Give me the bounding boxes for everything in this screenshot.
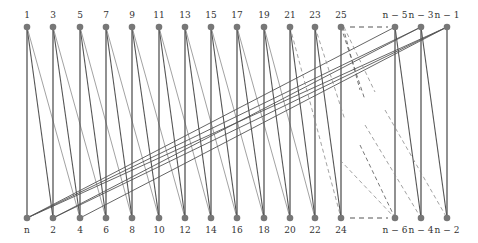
bottom-node [24, 215, 31, 222]
edge [132, 27, 159, 218]
bottom-node [312, 215, 319, 222]
top-node [129, 24, 136, 31]
bottom-node-label: n − 2 [435, 225, 460, 235]
top-node-label: 21 [284, 10, 295, 20]
edge [106, 27, 132, 218]
bottom-node [129, 215, 136, 222]
top-node [418, 24, 425, 31]
bottom-node [77, 215, 84, 222]
bottom-node [287, 215, 294, 222]
top-node [103, 24, 110, 31]
top-node [77, 24, 84, 31]
bottom-node-label: n − 4 [409, 225, 434, 235]
top-node [50, 24, 57, 31]
top-node [24, 24, 31, 31]
bottom-node-label: 6 [103, 225, 109, 235]
top-node [234, 24, 241, 31]
bottom-node [208, 215, 215, 222]
dashed-edge [365, 125, 421, 218]
edge [395, 27, 421, 218]
bottom-node [50, 215, 57, 222]
top-node [392, 24, 399, 31]
bottom-node [444, 215, 451, 222]
top-node-label: 13 [179, 10, 191, 20]
top-node [444, 24, 451, 31]
bottom-node-label: n [24, 225, 30, 235]
top-node-label: 3 [50, 10, 56, 20]
top-node [208, 24, 215, 31]
bottom-node-label: 14 [205, 225, 217, 235]
top-node-label: 1 [24, 10, 30, 20]
top-node-label: 23 [309, 10, 321, 20]
bottom-node-label: 12 [179, 225, 190, 235]
top-node [312, 24, 319, 31]
bottom-node-label: 2 [50, 225, 56, 235]
edge [185, 27, 211, 218]
top-node [261, 24, 268, 31]
edge [264, 27, 290, 218]
top-node [182, 24, 189, 31]
top-node [338, 24, 345, 31]
bottom-node [103, 215, 110, 222]
bottom-node [392, 215, 399, 222]
long-edge [53, 27, 447, 218]
dashed-edges [290, 27, 447, 218]
top-node-label: 9 [129, 10, 135, 20]
edge [159, 27, 185, 218]
edge [421, 27, 447, 218]
top-node-label: 15 [205, 10, 217, 20]
top-node [156, 24, 163, 31]
long-edge [27, 27, 421, 218]
bottom-node [261, 215, 268, 222]
bottom-node-label: 20 [284, 225, 296, 235]
edge [80, 27, 106, 218]
edge [27, 27, 53, 218]
bottom-node-label: 10 [153, 225, 165, 235]
bottom-node-label: 24 [335, 225, 347, 235]
dashed-edge [385, 110, 447, 218]
bottom-node [156, 215, 163, 222]
dashed-edge [360, 145, 395, 218]
top-node-label: 7 [103, 10, 109, 20]
top-node-label: 11 [153, 10, 164, 20]
bottom-node-label: 8 [129, 225, 135, 235]
edge [290, 27, 315, 218]
edge [53, 27, 80, 218]
edge [315, 27, 341, 218]
bottom-node-label: 4 [77, 225, 83, 235]
dashed-edge [343, 27, 360, 90]
top-node [287, 24, 294, 31]
bottom-node-label: n − 6 [383, 225, 408, 235]
top-node-label: n − 3 [409, 10, 434, 20]
bottom-node-label: 16 [231, 225, 243, 235]
dashed-edge [340, 160, 395, 218]
top-node-label: n − 5 [383, 10, 408, 20]
bottom-node-label: 18 [258, 225, 270, 235]
bipartite-graph-diagram: 135791113151719212325n − 5n − 3n − 1n246… [0, 0, 478, 243]
bottom-node [338, 215, 345, 222]
bottom-node [418, 215, 425, 222]
bottom-node-label: 22 [309, 225, 320, 235]
bottom-node [234, 215, 241, 222]
top-node-label: 17 [231, 10, 243, 20]
bottom-node [182, 215, 189, 222]
edges [27, 27, 447, 218]
top-node-label: 19 [258, 10, 270, 20]
top-node-label: 5 [77, 10, 83, 20]
top-node-label: 25 [335, 10, 347, 20]
top-node-label: n − 1 [435, 10, 460, 20]
